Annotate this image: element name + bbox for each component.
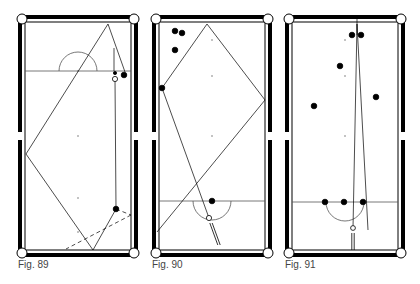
middle-pocket-icon	[285, 132, 291, 140]
object-ball	[209, 198, 215, 204]
figure-caption-90: Fig. 90	[152, 259, 183, 270]
middle-pocket-icon	[152, 132, 158, 140]
pocket-icon	[17, 248, 27, 258]
object-ball	[322, 199, 328, 205]
table-spot	[344, 135, 346, 137]
object-ball	[172, 28, 178, 34]
cue-ball	[206, 215, 211, 220]
middle-pocket-icon	[18, 132, 24, 140]
table-fig91	[284, 14, 406, 258]
pocket-icon	[17, 14, 27, 24]
object-ball	[172, 47, 178, 53]
middle-pocket-icon	[399, 132, 405, 140]
object-ball	[311, 103, 317, 109]
table-fig89	[17, 14, 139, 258]
pocket-icon	[396, 248, 406, 258]
table-spot	[344, 75, 346, 77]
pocket-icon	[284, 248, 294, 258]
object-ball	[179, 30, 185, 36]
cue-ball	[351, 226, 356, 231]
middle-pocket-icon	[266, 132, 272, 140]
pocket-icon	[129, 14, 139, 24]
object-ball	[159, 85, 165, 91]
table-spot	[211, 75, 213, 77]
object-ball	[373, 94, 379, 100]
object-ball	[121, 72, 127, 78]
object-ball	[113, 206, 119, 212]
figure-caption-91: Fig. 91	[285, 259, 316, 270]
pocket-icon	[151, 14, 161, 24]
table-fig90	[151, 14, 273, 258]
pocket-icon	[263, 248, 273, 258]
cue-ball	[112, 76, 117, 81]
pocket-icon	[129, 248, 139, 258]
pocket-icon	[284, 14, 294, 24]
pocket-icon	[396, 14, 406, 24]
object-ball	[337, 63, 343, 69]
billiards-diagram-figures	[0, 0, 420, 284]
small-ball	[113, 71, 116, 74]
table-spot	[211, 135, 213, 137]
table-spot	[77, 231, 79, 233]
pocket-icon	[151, 248, 161, 258]
table-spot	[211, 39, 213, 41]
object-ball	[349, 32, 355, 38]
object-ball	[360, 199, 366, 205]
table-spot	[77, 197, 79, 199]
middle-pocket-icon	[132, 132, 138, 140]
object-ball	[358, 32, 364, 38]
object-ball	[341, 199, 347, 205]
figure-caption-89: Fig. 89	[18, 259, 49, 270]
table-spot	[77, 135, 79, 137]
table-spot	[344, 39, 346, 41]
pocket-icon	[263, 14, 273, 24]
